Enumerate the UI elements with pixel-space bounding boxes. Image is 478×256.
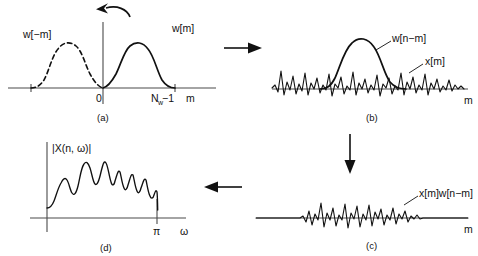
window-reflected-curve <box>31 43 103 88</box>
panel-a-right-tick-label: N w −1 <box>151 92 174 106</box>
panel-b-window-leader <box>376 41 391 50</box>
panel-d-axis-label: ω <box>180 225 188 237</box>
panel-a-reflected-window-label: w[−m] <box>22 28 51 40</box>
panel-a-window-label: w[m] <box>171 22 194 34</box>
panel-c: x[m]w[n−m] m (c) <box>256 187 473 251</box>
signal-curve-xm <box>272 71 464 96</box>
panel-b-caption: (b) <box>366 112 378 123</box>
panel-d-pi-label: π <box>153 225 160 237</box>
product-curve <box>256 203 468 228</box>
panel-a-origin-label: 0 <box>96 92 102 104</box>
panel-c-axis-label: m <box>464 223 473 235</box>
panel-b: w[n−m] x[m] m (b) <box>272 32 473 123</box>
panel-a-caption: (a) <box>97 112 109 123</box>
panel-a-axis-label: m <box>186 92 195 104</box>
arrow-left-icon <box>204 182 242 193</box>
panel-c-product-leader <box>404 196 418 205</box>
panel-c-product-label: x[m]w[n−m] <box>419 187 473 199</box>
arrow-right-icon <box>224 43 262 54</box>
panel-d-ylabel: |X(n, ω)| <box>52 142 91 154</box>
panel-b-signal-leader <box>409 64 423 73</box>
arrow-down-icon <box>345 134 356 174</box>
panel-b-axis-label: m <box>464 94 473 106</box>
curved-reflect-arrow-icon <box>96 3 130 17</box>
panel-b-window-label: w[n−m] <box>391 32 426 44</box>
window-curve <box>103 43 175 88</box>
nw-minus-one: −1 <box>162 92 174 104</box>
panel-d-caption: (d) <box>100 242 112 253</box>
figure-canvas: w[−m] w[m] 0 N w −1 m (a) w[n−m] x[m] m … <box>0 0 478 256</box>
window-curve-wnm <box>320 39 406 89</box>
panel-d: |X(n, ω)| π ω (d) <box>30 142 188 253</box>
magnitude-spectrum-curve <box>47 162 158 210</box>
panel-a: w[−m] w[m] 0 N w −1 m (a) <box>8 3 216 123</box>
panel-b-signal-label: x[m] <box>425 55 445 67</box>
panel-c-caption: (c) <box>366 240 377 251</box>
